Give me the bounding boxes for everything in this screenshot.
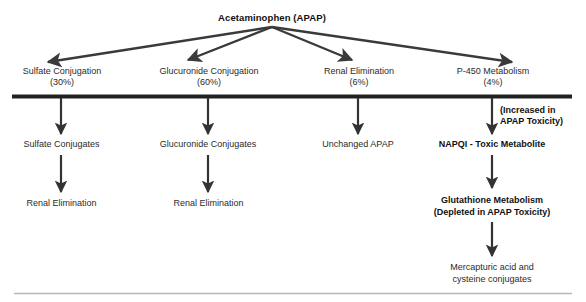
product-unchanged-apap: Unchanged APAP [305,139,411,150]
fate-glucuronide-renal-elimination: Renal Elimination [155,198,262,209]
p450-toxicity-note: (Increased in APAP Toxicity) [500,105,584,127]
terminal-product-label: Mercapturic acid and cysteine conjugates [419,261,565,285]
apap-metabolism-diagram: Acetaminophen (APAP) Sulfate Conjugation… [0,0,586,302]
pathway-label-sulfate: Sulfate Conjugation (30%) [2,66,122,88]
tier3-arrows [61,155,492,192]
product-sulfate-conjugates: Sulfate Conjugates [4,139,119,150]
pathway-label-glucuronide: Glucuronide Conjugation (60%) [143,66,275,88]
diagram-connectors [0,0,586,302]
fate-sulfate-renal-elimination: Renal Elimination [8,198,115,209]
root-node-label: Acetaminophen (APAP) [172,12,372,23]
product-glucuronide-conjugates: Glucuronide Conjugates [142,139,274,150]
tier2-arrows [61,98,492,134]
product-napqi: NAPQI - Toxic Metabolite [418,139,566,150]
fate-glutathione-metabolism: Glutathione Metabolism (Depleted in APAP… [401,194,583,218]
pathway-label-p450: P-450 Metabolism (4%) [437,66,549,88]
root-fanout-arrows [48,27,512,62]
pathway-label-renal: Renal Elimination (6%) [300,66,418,88]
